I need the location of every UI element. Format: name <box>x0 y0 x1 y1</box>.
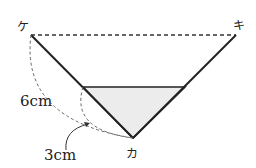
triangle-diagram: ケ キ カ 6cm 3cm <box>0 0 256 168</box>
measure-3cm: 3cm <box>44 146 76 164</box>
label-ki: キ <box>233 19 245 33</box>
label-ka: カ <box>126 147 138 161</box>
measure-6cm: 6cm <box>20 92 52 110</box>
label-ke: ケ <box>17 20 29 34</box>
